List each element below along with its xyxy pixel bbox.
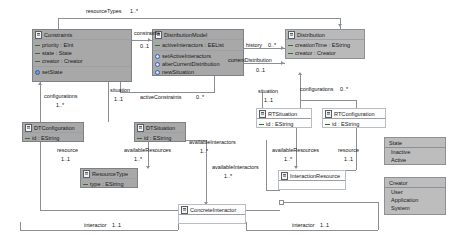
edge-label-situation-left-mult: 1..1 (114, 96, 123, 103)
attribute-label: id : EString (144, 134, 171, 142)
edge-label-availableresources-left-mult: 1..* (134, 156, 142, 163)
edge-label-constraints-role: constraints (134, 30, 160, 37)
class-attribute: id : EString (259, 120, 309, 128)
attribute-label: creator : Creator (295, 49, 336, 57)
class-operation: setState (35, 68, 129, 76)
edge-label-currentdistribution-mult: 0..1 (256, 67, 265, 74)
attribute-icon (35, 59, 40, 64)
class-icon (259, 110, 266, 118)
class-box-dtconfiguration[interactable]: DTConfiguration id : EString (22, 122, 84, 142)
class-attributes-concreteinteractor (179, 215, 245, 217)
class-icon (35, 31, 42, 39)
class-box-dtsituation[interactable]: DTSituation id : EString (134, 122, 186, 142)
edge-history-arrow (281, 46, 284, 50)
class-icon (325, 110, 332, 118)
edge-label-currentdistribution-role: currentDistribution (228, 57, 272, 64)
class-attributes-distributionmodel: activeInteractors : EEList (153, 40, 243, 50)
edge-availableinteractors-b-v (266, 140, 267, 190)
class-header-rtsituation: RTSituation (257, 109, 311, 118)
edge-resource-left-v (40, 140, 41, 210)
class-icon (137, 124, 144, 132)
edge-availableresources-left-v (148, 140, 149, 168)
attribute-label: type : EString (90, 180, 124, 188)
class-name: InteractionResource (290, 172, 340, 180)
enum-box-state[interactable]: State Inactive Active (384, 137, 446, 165)
edge-activeconstraints-v (214, 76, 215, 92)
class-box-interactionresource[interactable]: InteractionResource (278, 170, 346, 190)
edge-label-interactor-left-mult: 1..1 (112, 222, 121, 229)
class-header-rtconfiguration: RTConfiguration (323, 109, 385, 118)
class-box-distribution[interactable]: Distribution creationTime : EString crea… (285, 29, 365, 59)
class-name: ResourceType (92, 170, 128, 178)
attribute-label: id : EString (332, 120, 359, 128)
attribute-icon (35, 43, 40, 48)
class-attributes-rtsituation: id : EString (257, 119, 311, 129)
edge-label-situation-left-role: situation (110, 87, 130, 94)
edge-label-resource-right-mult: 1..1 (344, 156, 353, 163)
attribute-label: state : State (42, 49, 72, 57)
class-icon (288, 31, 295, 39)
class-header-dtconfiguration: DTConfiguration (23, 123, 83, 132)
class-name: DistributionModel (164, 31, 207, 39)
class-box-distributionmodel[interactable]: DistributionModel activeInteractors : EE… (152, 29, 244, 76)
edge-currentdistribution-arrow (281, 61, 284, 65)
attribute-label: activeInteractors : EEList (162, 41, 224, 49)
class-box-rtconfiguration[interactable]: RTConfiguration id : EString (322, 108, 386, 128)
edge-interactor-left-v2 (20, 222, 21, 230)
attribute-icon (325, 122, 330, 127)
edge-label-configurations-right-mult: 0..* (340, 86, 348, 93)
class-name: RTSituation (268, 110, 297, 118)
class-name: Constraints (44, 31, 72, 39)
class-header-dtsituation: DTSituation (135, 123, 185, 132)
operation-icon (35, 70, 40, 75)
class-box-rtsituation[interactable]: RTSituation id : EString (256, 108, 312, 128)
edge-availableinteractors-b-h (266, 190, 280, 191)
enum-literal: Application (385, 196, 445, 204)
edge-configurations-right-v2 (356, 100, 357, 108)
edge-anchor-marker (279, 200, 284, 205)
attribute-icon (288, 51, 293, 56)
class-attribute: id : EString (137, 134, 183, 142)
enum-box-creator[interactable]: Creator User Application System (384, 177, 446, 215)
edge-resourcetypes-h (58, 18, 340, 19)
attribute-icon (259, 122, 264, 127)
attribute-icon (288, 43, 293, 48)
class-icon (181, 206, 188, 214)
edge-availableresources-left-arrow (146, 166, 150, 169)
edge-constraints-arrow (148, 38, 151, 42)
class-name: RTConfiguration (334, 110, 375, 118)
class-box-constraints[interactable]: Constraints priority : EInt state : Stat… (32, 29, 132, 82)
class-box-resourcetype[interactable]: ResourceType type : EString (80, 168, 138, 188)
attribute-label: creationTime : EString (295, 41, 350, 49)
edge-interactor-right-h2 (280, 202, 378, 203)
edge-label-availableresources-right-role: availableResources (272, 147, 319, 154)
edge-label-resource-left-role: resource (57, 147, 78, 154)
operation-label: alterCurrentDistribution (162, 60, 220, 68)
edge-label-availableinteractors-b-role: availableInteractors (212, 164, 259, 171)
edge-label-resource-left-mult: 1..1 (61, 156, 70, 163)
edge-label-availableresources-left-role: availableResources (124, 147, 171, 154)
class-icon (281, 172, 288, 180)
attribute-label: priority : EInt (42, 41, 73, 49)
edge-interactor-right-h (246, 230, 378, 231)
edge-availableresources-right-arrow (294, 166, 298, 169)
class-attributes-dtconfiguration: id : EString (23, 133, 83, 143)
enum-name: State (385, 138, 445, 147)
class-attributes-resourcetype: type : EString (81, 179, 137, 189)
attribute-icon (35, 51, 40, 56)
edge-label-situation-right-role: situation (258, 88, 278, 95)
edge-configurations-right-h (300, 100, 356, 101)
edge-label-configurations-left-role: configurations (44, 93, 78, 100)
enum-literal: Inactive (385, 148, 445, 156)
edge-label-interactor-right-role: interactor (292, 222, 314, 229)
edge-label-activeconstraints-role: activeConstraints (140, 94, 181, 101)
class-attributes-interactionresource (279, 181, 345, 183)
edge-label-availableinteractors-a-role: availableInteractors (189, 139, 236, 146)
class-attribute: activeInteractors : EEList (155, 41, 241, 49)
class-attributes-distribution: creationTime : EString creator : Creator (286, 40, 364, 58)
class-box-concreteinteractor[interactable]: ConcreteInteractor (178, 204, 246, 224)
edge-label-resourcetypes-role: resourceTypes (86, 8, 121, 15)
class-operations-constraints: setState (33, 67, 131, 77)
attribute-icon (155, 43, 160, 48)
edge-label-availableresources-right-mult: 1..* (284, 156, 292, 163)
